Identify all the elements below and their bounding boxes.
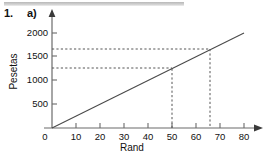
y-axis-title: Pesetas: [8, 42, 19, 102]
y-tick-label: 1500: [27, 50, 48, 61]
y-tick-label: 1000: [27, 74, 48, 85]
x-axis-arrowhead: [254, 124, 263, 131]
conversion-line-chart: 500 1000 1500 2000 0 10 20 30 40 50 60 7…: [0, 0, 270, 157]
x-tick-label: 30: [119, 131, 130, 142]
x-tick-label: 40: [143, 131, 154, 142]
x-tick-label: 60: [191, 131, 202, 142]
y-axis-tick-labels: 500 1000 1500 2000: [27, 27, 48, 109]
x-tick-label: 0: [42, 131, 47, 142]
graph-page: 1. a) 500 1000 1500 2000: [0, 0, 270, 157]
x-tick-label: 20: [95, 131, 106, 142]
conversion-line: [52, 33, 244, 128]
x-axis-title: Rand: [120, 142, 144, 153]
y-tick-label: 2000: [27, 27, 48, 38]
x-tick-label: 10: [71, 131, 82, 142]
x-tick-label: 70: [215, 131, 226, 142]
x-axis-tick-labels: 0 10 20 30 40 50 60 70 80: [42, 131, 249, 142]
y-axis-arrowhead: [49, 9, 56, 17]
x-tick-label: 80: [239, 131, 250, 142]
x-axis-ticks: [76, 123, 244, 128]
x-tick-label: 50: [167, 131, 178, 142]
y-tick-label: 500: [32, 98, 48, 109]
